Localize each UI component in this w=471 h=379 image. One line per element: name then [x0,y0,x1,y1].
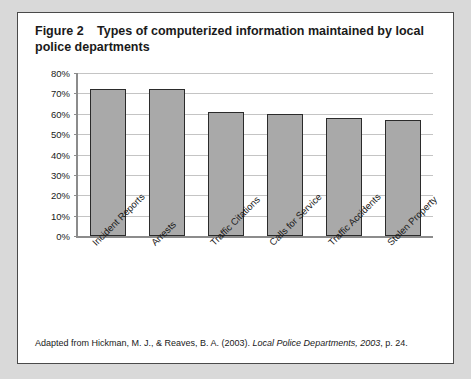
figure-caption: Adapted from Hickman, M. J., & Reaves, B… [35,337,439,349]
y-axis-tick-label: 20% [51,190,70,201]
y-axis-tick-label: 80% [51,68,70,79]
y-axis-tick-label: 40% [51,149,70,160]
y-axis-tick-label: 70% [51,88,70,99]
y-axis-tick-label: 50% [51,129,70,140]
bar [149,89,185,236]
x-axis: Incident ReportsArrestsTraffic Citations… [76,238,431,318]
caption-prefix: Adapted from Hickman, M. J., & Reaves, B… [35,338,253,348]
y-axis-tick-label: 0% [56,231,70,242]
figure-title: Figure 2Types of computerized informatio… [35,23,439,55]
y-axis-tick-label: 60% [51,108,70,119]
y-axis-tick-label: 10% [51,210,70,221]
figure-container: Figure 2Types of computerized informatio… [17,12,454,364]
bar-slot [137,73,196,236]
figure-number: Figure 2 [35,23,97,39]
caption-source-title: Local Police Departments, 2003 [253,338,381,348]
y-axis-tick [74,236,78,237]
y-axis-tick-label: 30% [51,169,70,180]
y-axis: 0%10%20%30%40%50%60%70%80% [38,73,74,236]
caption-suffix: , p. 24. [380,338,408,348]
bar-chart: 0%10%20%30%40%50%60%70%80% Incident Repo… [38,73,438,263]
